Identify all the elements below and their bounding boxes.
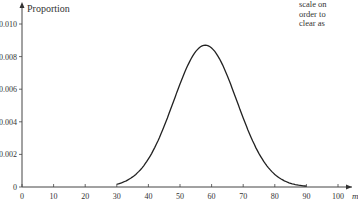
y-axis-arrow-icon <box>20 2 25 8</box>
proportion-chart: 010203040506070809010000.0020.0040.0060.… <box>0 0 358 206</box>
ticks: 010203040506070809010000.0020.0040.0060.… <box>0 20 344 201</box>
y-tick-label: 0 <box>13 183 17 192</box>
x-tick-label: 80 <box>271 192 279 201</box>
y-tick-label: 0.002 <box>0 150 17 159</box>
x-tick-label: 20 <box>81 192 89 201</box>
x-tick-label: 100 <box>332 192 344 201</box>
x-tick-label: 70 <box>239 192 247 201</box>
y-axis-label: Proportion <box>27 3 70 14</box>
y-tick-label: 0.008 <box>0 53 17 62</box>
x-tick-label: 60 <box>208 192 216 201</box>
x-axis-arrow-icon <box>346 185 352 190</box>
distribution-curve <box>117 45 307 186</box>
axes <box>20 2 353 190</box>
margin-text: scale on order to clear as <box>299 0 327 29</box>
x-tick-label: 50 <box>176 192 184 201</box>
x-tick-label: 0 <box>20 192 24 201</box>
x-tick-label: 90 <box>302 192 310 201</box>
x-tick-label: 10 <box>50 192 58 201</box>
y-tick-label: 0.006 <box>0 85 17 94</box>
x-axis-label: m <box>352 191 358 201</box>
y-tick-label: 0.010 <box>0 20 17 29</box>
y-tick-label: 0.004 <box>0 118 17 127</box>
x-tick-label: 40 <box>144 192 152 201</box>
x-tick-label: 30 <box>113 192 121 201</box>
margin-text-line: clear as <box>299 19 327 29</box>
